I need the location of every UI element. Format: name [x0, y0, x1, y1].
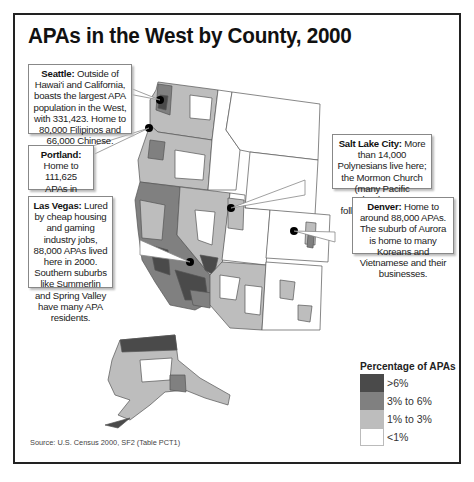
callout-seattle: Seattle: Outside of Hawai'i and Californ…: [28, 64, 132, 134]
callout-salt-lake-city: Salt Lake City: More than 14,000 Polynes…: [332, 134, 432, 189]
legend-item-mid: 3% to 6%: [360, 392, 464, 410]
callout-las-vegas: Las Vegas: Lured by cheap housing and ga…: [28, 196, 113, 288]
state-wyoming: [245, 152, 318, 215]
callout-seattle-text: Outside of Hawai'i and California, boast…: [34, 68, 127, 146]
legend-label-low: 1% to 3%: [387, 413, 432, 425]
legend-label-high: >6%: [387, 377, 408, 389]
source-note: Source: U.S. Census 2000, SF2 (Table PCT…: [30, 438, 180, 447]
legend-swatch-none: [360, 428, 384, 446]
callout-las-vegas-text: Lured by cheap housing and gaming indust…: [34, 200, 108, 323]
callout-denver-text: Home to around 88,000 APAs. The suburb o…: [360, 201, 447, 279]
legend-swatch-high: [360, 374, 384, 392]
callout-seattle-city: Seattle:: [41, 68, 74, 79]
legend-label-mid: 3% to 6%: [387, 395, 432, 407]
legend-item-high: >6%: [360, 374, 464, 392]
callout-portland-city: Portland:: [41, 149, 81, 160]
legend-swatch-low: [360, 410, 384, 428]
state-montana: [226, 92, 320, 160]
legend-item-none: <1%: [360, 428, 464, 446]
legend-swatch-mid: [360, 392, 384, 410]
callout-denver-city: Denver:: [367, 201, 401, 212]
callout-denver: Denver: Home to around 88,000 APAs. The …: [352, 197, 454, 254]
legend: Percentage of APAs >6% 3% to 6% 1% to 3%…: [360, 360, 464, 446]
legend-title: Percentage of APAs: [360, 360, 456, 372]
legend-label-none: <1%: [387, 431, 408, 443]
callout-salt-lake-city-city: Salt Lake City:: [339, 138, 402, 149]
legend-item-low: 1% to 3%: [360, 410, 464, 428]
callout-las-vegas-city: Las Vegas:: [33, 200, 81, 211]
callout-portland: Portland: Home to 111,625 APAs in 2000.: [28, 145, 94, 190]
